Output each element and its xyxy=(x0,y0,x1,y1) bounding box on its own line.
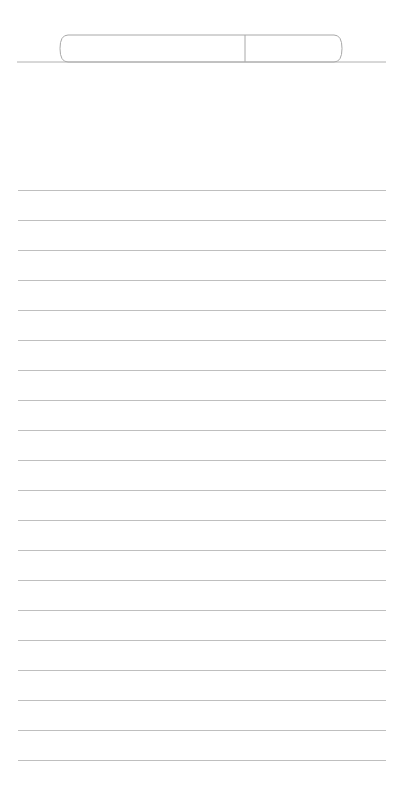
write-line-2[interactable] xyxy=(18,191,386,220)
write-line-16[interactable] xyxy=(18,611,386,640)
write-line-8[interactable] xyxy=(18,371,386,400)
write-line-3[interactable] xyxy=(18,221,386,250)
write-line-9[interactable] xyxy=(18,401,386,430)
write-line-6[interactable] xyxy=(18,311,386,340)
write-line-15[interactable] xyxy=(18,581,386,610)
notepad-page xyxy=(0,0,403,793)
write-line-19[interactable] xyxy=(18,701,386,730)
write-line-4[interactable] xyxy=(18,251,386,280)
write-line-20[interactable] xyxy=(18,731,386,760)
write-line-13[interactable] xyxy=(18,521,386,550)
write-line-18[interactable] xyxy=(18,671,386,700)
rule-line xyxy=(18,760,386,761)
pen-body[interactable] xyxy=(60,35,342,62)
write-line-17[interactable] xyxy=(18,641,386,670)
pen-tray-graphic xyxy=(0,0,403,70)
write-line-1[interactable] xyxy=(18,161,386,190)
write-line-14[interactable] xyxy=(18,551,386,580)
write-line-5[interactable] xyxy=(18,281,386,310)
write-line-12[interactable] xyxy=(18,491,386,520)
write-line-7[interactable] xyxy=(18,341,386,370)
ruled-paper xyxy=(0,70,403,793)
write-line-11[interactable] xyxy=(18,461,386,490)
write-line-10[interactable] xyxy=(18,431,386,460)
pen-tray xyxy=(0,0,403,70)
